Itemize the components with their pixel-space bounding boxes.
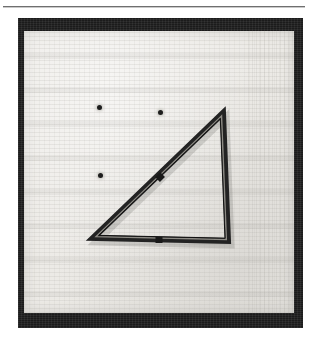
pegboard-surface bbox=[24, 31, 294, 313]
bottom-midpoint-joint bbox=[156, 237, 163, 243]
horizontal-rule bbox=[3, 6, 305, 7]
triangular-rod-frame bbox=[24, 31, 294, 313]
figure-photograph bbox=[18, 18, 303, 328]
frame-shadow bbox=[96, 117, 231, 245]
horizontal-rule-shadow bbox=[3, 7, 305, 8]
